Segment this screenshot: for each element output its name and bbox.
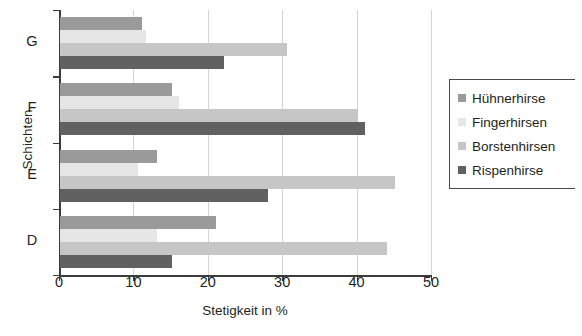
y-axis-tick (53, 209, 59, 210)
x-axis-tick-label: 20 (188, 274, 228, 290)
bar (60, 150, 157, 163)
bar (60, 255, 172, 268)
bar (60, 176, 395, 189)
y-axis-title: Schichten (20, 70, 35, 210)
y-axis-category-label: F (14, 99, 50, 115)
bar (60, 109, 358, 122)
bar-chart: Schichten 01020304050 GFED Stetigkeit in… (0, 0, 582, 336)
bar (60, 83, 172, 96)
legend-item: Rispenhirse (458, 158, 575, 182)
y-axis-tick (53, 76, 59, 77)
y-axis-tick (53, 10, 59, 11)
x-axis-tick-label: 0 (39, 274, 79, 290)
legend-item: Borstenhirsen (458, 134, 575, 158)
bar (60, 43, 287, 56)
bar (60, 216, 216, 229)
plot-area (59, 10, 431, 275)
y-axis-tick (53, 143, 59, 144)
x-axis-tick-label: 50 (411, 274, 451, 290)
x-axis-tick-label: 10 (113, 274, 153, 290)
y-axis-category-label: D (14, 232, 50, 248)
bar (60, 242, 387, 255)
bar (60, 30, 146, 43)
x-axis-tick-label: 40 (337, 274, 377, 290)
legend: HühnerhirseFingerhirsenBorstenhirsenRisp… (449, 79, 575, 189)
bar (60, 189, 268, 202)
legend-label: Rispenhirse (472, 163, 543, 178)
legend-label: Borstenhirsen (472, 139, 555, 154)
bar (60, 56, 224, 69)
bar (60, 163, 138, 176)
y-axis-category-label: G (14, 33, 50, 49)
x-axis-tick-label: 30 (262, 274, 302, 290)
x-axis-title: Stetigkeit in % (59, 303, 431, 318)
legend-swatch-icon (458, 142, 466, 150)
bar (60, 122, 365, 135)
legend-item: Fingerhirsen (458, 110, 575, 134)
legend-item: Hühnerhirse (458, 86, 575, 110)
bar (60, 96, 179, 109)
gridline (357, 10, 358, 275)
legend-swatch-icon (458, 166, 466, 174)
bar (60, 229, 157, 242)
legend-label: Fingerhirsen (472, 115, 547, 130)
bar (60, 17, 142, 30)
legend-swatch-icon (458, 94, 466, 102)
gridline (431, 10, 432, 275)
legend-swatch-icon (458, 118, 466, 126)
legend-label: Hühnerhirse (472, 91, 546, 106)
y-axis-category-label: E (14, 166, 50, 182)
